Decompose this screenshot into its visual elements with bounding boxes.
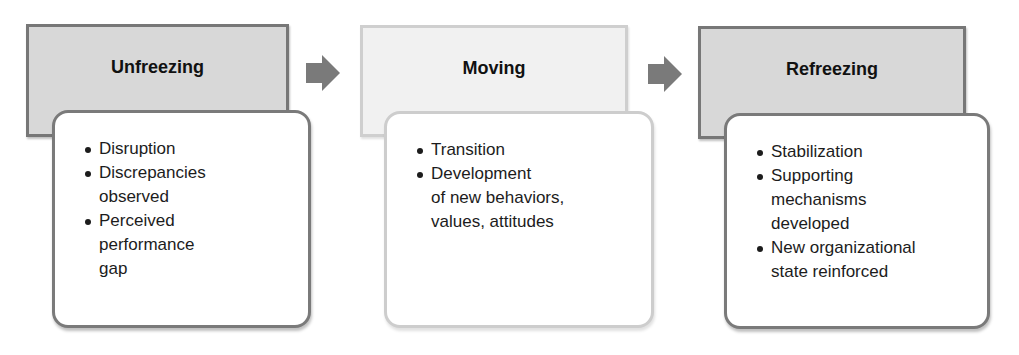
bullet-dot-icon — [85, 219, 91, 225]
bullet-item: New organizational state reinforced — [757, 236, 977, 284]
bullet-item: Discrepancies observed — [85, 161, 298, 209]
stage-refreezing-card: Stabilization Supporting mechanisms deve… — [724, 113, 990, 329]
bullet-list: Transition Development of new behaviors,… — [417, 138, 641, 234]
bullet-dot-icon — [417, 172, 423, 178]
bullet-item: Stabilization — [757, 140, 977, 164]
stage-title: Moving — [363, 57, 625, 79]
bullet-item: Disruption — [85, 137, 298, 161]
bullet-item: Transition — [417, 138, 641, 162]
bullet-dot-icon — [417, 148, 423, 154]
bullet-list: Disruption Discrepancies observed Percei… — [85, 137, 298, 281]
bullet-dot-icon — [85, 147, 91, 153]
right-arrow-icon — [648, 56, 682, 92]
bullet-item: Supporting mechanisms developed — [757, 164, 977, 236]
stage-title: Unfreezing — [29, 56, 286, 78]
stage-title: Refreezing — [701, 58, 963, 80]
bullet-item: Development of new behaviors, values, at… — [417, 162, 641, 234]
bullet-dot-icon — [85, 171, 91, 177]
bullet-list: Stabilization Supporting mechanisms deve… — [757, 140, 977, 284]
stage-unfreezing-card: Disruption Discrepancies observed Percei… — [52, 110, 311, 328]
bullet-dot-icon — [757, 174, 763, 180]
right-arrow-icon — [306, 55, 340, 91]
bullet-item: Perceived performance gap — [85, 209, 298, 281]
bullet-dot-icon — [757, 150, 763, 156]
bullet-dot-icon — [757, 246, 763, 252]
stage-moving-card: Transition Development of new behaviors,… — [384, 111, 654, 328]
